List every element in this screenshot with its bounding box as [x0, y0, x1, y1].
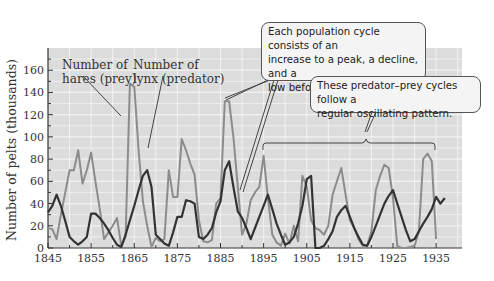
- x-tick-label: 1865: [120, 252, 148, 265]
- y-tick-label: 140: [23, 86, 44, 99]
- y-axis-label: Number of pelts (thousands): [4, 59, 19, 241]
- series-label: Number of: [62, 58, 129, 72]
- y-tick-label: 160: [23, 64, 44, 77]
- y-tick-label: 100: [23, 131, 44, 144]
- callout-population-cycle: Each population cycle consists of an inc…: [261, 22, 426, 81]
- x-tick-label: 1915: [336, 252, 364, 265]
- x-tick-label: 1925: [379, 252, 407, 265]
- callout-line: Each population cycle consists of an: [268, 25, 419, 53]
- y-tick-label: 120: [23, 109, 44, 122]
- callout-oscillating-pattern: These predator–prey cycles follow a regu…: [310, 76, 481, 113]
- series-label: lynx (predator): [133, 72, 224, 86]
- x-tick-label: 1875: [163, 252, 191, 265]
- y-tick-label: 80: [30, 153, 44, 166]
- y-tick-label: 20: [30, 220, 44, 233]
- x-tick-label: 1935: [422, 252, 450, 265]
- y-tick-label: 60: [30, 175, 44, 188]
- x-tick-label: 1895: [250, 252, 278, 265]
- x-tick-label: 1845: [34, 252, 62, 265]
- callout-line: These predator–prey cycles follow a: [317, 79, 474, 107]
- x-tick-label: 1885: [207, 252, 235, 265]
- callout-line: regular oscillating pattern.: [317, 107, 474, 121]
- series-label: Number of: [133, 58, 200, 72]
- x-tick-label: 1855: [77, 252, 105, 265]
- x-tick-label: 1905: [293, 252, 321, 265]
- y-tick-label: 40: [30, 198, 44, 211]
- series-label: hares (prey): [62, 72, 136, 86]
